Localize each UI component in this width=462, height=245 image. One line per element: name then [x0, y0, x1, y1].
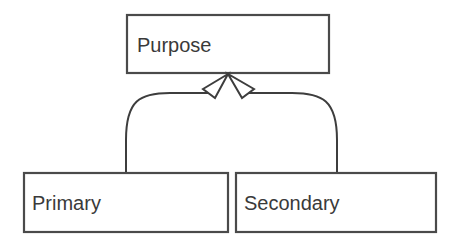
node-primary[interactable]: Primary: [24, 173, 228, 232]
class-diagram: Purpose Primary Secondary: [0, 0, 462, 245]
node-purpose-label: Purpose: [137, 34, 212, 56]
node-purpose[interactable]: Purpose: [127, 15, 329, 73]
generalization-arrowhead-icon: [203, 74, 228, 98]
node-secondary-label: Secondary: [244, 192, 340, 214]
edge-primary-line: [126, 93, 209, 173]
edge-secondary-to-purpose: [228, 74, 337, 173]
edge-primary-to-purpose: [126, 74, 228, 173]
generalization-arrowhead-icon: [228, 74, 254, 98]
edge-secondary-line: [248, 93, 337, 173]
node-secondary[interactable]: Secondary: [236, 173, 436, 232]
node-primary-label: Primary: [32, 192, 101, 214]
